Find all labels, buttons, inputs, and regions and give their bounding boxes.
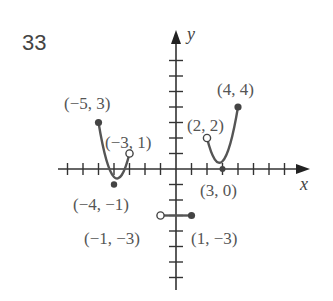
y-axis-label: y [185, 24, 195, 44]
vertex-point-m4-m1 [111, 181, 117, 187]
label-2-2: (2, 2) [187, 116, 224, 135]
label-m4-m1: (−4, −1) [73, 195, 129, 214]
label-1-m3: (1, −3) [191, 229, 237, 248]
label-4-4: (4, 4) [217, 80, 254, 99]
function-graph: 33 x y (−5, 3) (−3, 1) (−4, −1) (−1, −3)… [0, 0, 333, 301]
open-point-m1-m3 [157, 212, 164, 219]
label-m5-3: (−5, 3) [64, 94, 110, 113]
axes [58, 37, 300, 290]
open-point-2-2 [203, 134, 210, 141]
x-axis-arrow-icon [296, 164, 310, 174]
closed-point-4-4 [234, 103, 241, 110]
x-axis-label: x [299, 174, 308, 194]
label-m1-m3: (−1, −3) [84, 229, 140, 248]
label-3-0: (3, 0) [200, 181, 237, 200]
closed-point-1-m3 [188, 212, 195, 219]
y-axis-arrow-icon [171, 30, 181, 44]
label-m3-1: (−3, 1) [105, 133, 151, 152]
closed-point-m5-3 [95, 119, 102, 126]
vertex-point-3-0 [220, 166, 226, 172]
problem-number: 33 [22, 30, 46, 55]
